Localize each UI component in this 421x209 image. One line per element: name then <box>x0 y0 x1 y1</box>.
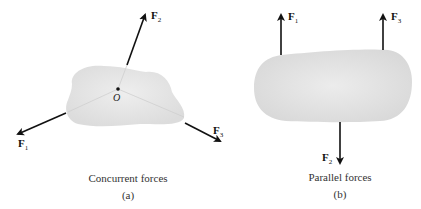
force-label-f2-b: F2 <box>322 151 332 166</box>
panel-b-body <box>254 49 412 122</box>
force-label-f1-a: F1 <box>18 137 28 152</box>
force-label-f3-b: F3 <box>391 10 401 25</box>
force-f2-arrow-a <box>127 15 145 65</box>
force-f1-arrow-a <box>18 113 66 134</box>
caption-a: Concurrent forces <box>88 172 167 184</box>
caption-b: Parallel forces <box>308 171 371 183</box>
point-o-dot <box>116 87 120 91</box>
force-label-f1-b: F1 <box>288 10 298 25</box>
panel-a-body <box>66 66 184 127</box>
force-label-f2-a: F2 <box>151 9 161 24</box>
point-o-label: O <box>113 92 120 103</box>
sublabel-a: (a) <box>122 189 134 201</box>
sublabel-b: (b) <box>334 188 347 200</box>
force-label-f3-a: F3 <box>213 124 223 139</box>
